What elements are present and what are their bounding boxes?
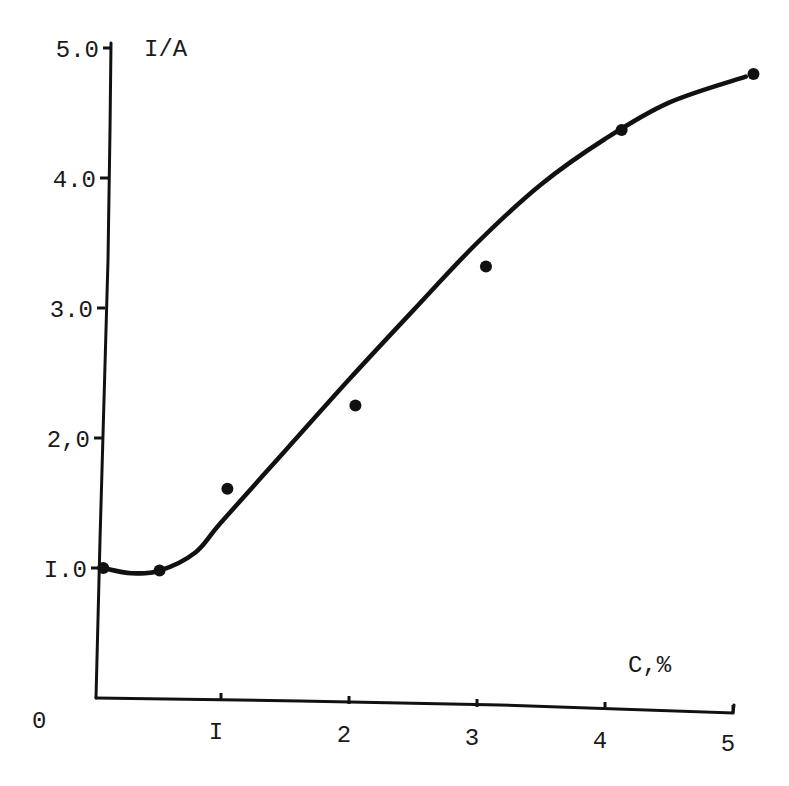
y-tick-label: 4.0: [53, 167, 96, 194]
x-tick-label: 4: [593, 728, 607, 755]
x-axis-ticks: I2345: [209, 693, 735, 758]
data-points: [97, 68, 759, 577]
x-axis-title: C,%: [628, 652, 672, 679]
chart-canvas: I.02,03.04.05.0 I/A I2345 C,% 0: [0, 0, 789, 786]
fitted-curve: [103, 77, 746, 574]
y-axis: I.02,03.04.05.0 I/A: [44, 36, 188, 698]
x-tick-label: 5: [721, 731, 735, 758]
x-tick-label: 2: [337, 722, 351, 749]
data-point: [616, 124, 628, 136]
data-point: [747, 68, 759, 80]
y-tick-label: I.0: [44, 557, 87, 584]
data-point: [97, 562, 109, 574]
y-tick-label: 3.0: [50, 297, 93, 324]
y-tick-label: 2,0: [47, 427, 90, 454]
y-axis-title: I/A: [144, 36, 188, 63]
x-tick-label: 3: [465, 725, 479, 752]
origin-label: 0: [32, 708, 46, 735]
data-point: [349, 400, 361, 412]
x-tick-label: I: [209, 719, 223, 746]
data-point: [480, 260, 492, 272]
fitted-curve-path: [103, 77, 746, 574]
data-point: [221, 483, 233, 495]
y-axis-line: [96, 43, 111, 698]
y-tick-label: 5.0: [56, 37, 99, 64]
x-axis: I2345 C,% 0: [32, 652, 735, 758]
data-point: [154, 565, 166, 577]
x-axis-line: [96, 698, 734, 713]
